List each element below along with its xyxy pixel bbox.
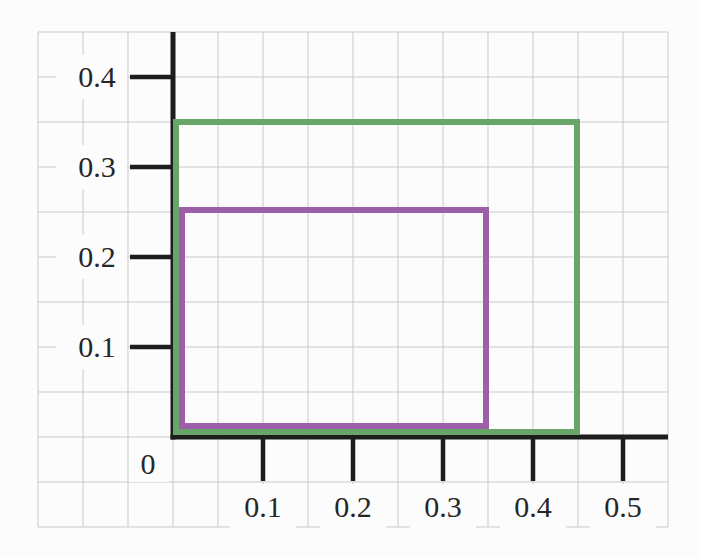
origin-label: 0 (141, 447, 156, 480)
y-tick-label: 0.1 (78, 330, 116, 363)
x-tick-label: 0.1 (244, 490, 282, 523)
coordinate-grid-figure: 0.10.20.30.40.50.10.20.30.40 (0, 0, 701, 558)
y-tick-label: 0.3 (78, 150, 116, 183)
chart-canvas: 0.10.20.30.40.50.10.20.30.40 (0, 0, 701, 558)
x-tick-label: 0.3 (424, 490, 462, 523)
x-tick-label: 0.4 (514, 490, 552, 523)
y-tick-label: 0.2 (78, 240, 116, 273)
x-tick-label: 0.5 (604, 490, 642, 523)
x-tick-label: 0.2 (334, 490, 372, 523)
y-tick-label: 0.4 (78, 60, 116, 93)
